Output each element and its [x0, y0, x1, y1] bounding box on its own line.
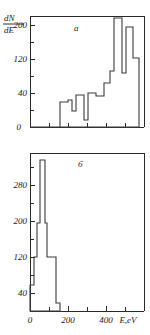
panel-b-label: б [78, 159, 83, 169]
panel-b-xtick-400: 400 [99, 315, 113, 325]
panel-b-ytick-40: 40 [18, 288, 28, 298]
panel-b-xtick-200: 200 [61, 315, 75, 325]
panel-a-x-ticks [30, 122, 125, 127]
panel-b-x-ticks [30, 306, 125, 311]
panel-b-histogram [30, 160, 60, 311]
panel-a-ytick-0: 0 [17, 122, 22, 132]
panel-b-ytick-200: 200 [14, 216, 28, 226]
x-axis-title: E,eV [118, 315, 138, 325]
panel-b-ytick-120: 120 [14, 252, 28, 262]
panel-a-y-ticks [30, 25, 35, 127]
panel-a-histogram [30, 18, 139, 127]
figure-container: dN dE a 0 40 120 200 [0, 0, 150, 335]
panel-a-ytick-40: 40 [18, 88, 28, 98]
panel-a-ytick-120: 120 [14, 54, 28, 64]
panel-a-label: a [74, 23, 79, 33]
panel-b-chart: б 40 120 200 280 [0, 148, 150, 335]
panel-a-chart: dN dE a 0 40 120 200 [0, 0, 150, 150]
panel-b-xtick-0: 0 [28, 315, 33, 325]
panel-b-ytick-280: 280 [14, 180, 28, 190]
panel-a-ytick-200: 200 [14, 20, 28, 30]
